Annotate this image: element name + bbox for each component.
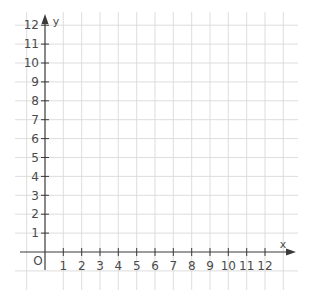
x-tick-label: 12 [257, 259, 272, 273]
origin-label: O [33, 254, 42, 268]
y-tick-label: 2 [31, 207, 39, 221]
x-tick-label: 7 [169, 259, 177, 273]
y-tick-label: 1 [31, 226, 39, 240]
x-tick-label: 8 [188, 259, 196, 273]
y-tick-label: 9 [31, 75, 39, 89]
x-tick-label: 5 [133, 259, 141, 273]
y-tick-label: 10 [24, 56, 39, 70]
y-axis-arrow-icon [42, 14, 49, 24]
grid-lines [15, 12, 298, 290]
x-tick-label: 2 [78, 259, 86, 273]
x-tick-label: 3 [96, 259, 104, 273]
y-tick-label: 3 [31, 189, 39, 203]
y-tick-label: 5 [31, 151, 39, 165]
x-tick-label: 9 [206, 259, 214, 273]
x-axis-arrow-icon [286, 249, 296, 256]
y-tick-label: 4 [31, 170, 39, 184]
y-axis-label: y [53, 15, 60, 28]
coordinate-plane: 1 2 3 4 5 6 7 8 9 10 11 12 1 2 3 4 5 6 7… [0, 0, 311, 295]
y-tick-label: 12 [24, 18, 39, 32]
y-tick-label: 8 [31, 94, 39, 108]
x-tick-label: 6 [151, 259, 159, 273]
x-tick-label: 10 [221, 259, 236, 273]
y-tick-label: 11 [24, 37, 39, 51]
y-tick-label: 7 [31, 113, 39, 127]
x-tick-label: 1 [59, 259, 67, 273]
x-axis-label: x [280, 238, 287, 251]
y-tick-label: 6 [31, 132, 39, 146]
x-tick-label: 11 [239, 259, 254, 273]
x-tick-label: 4 [114, 259, 122, 273]
